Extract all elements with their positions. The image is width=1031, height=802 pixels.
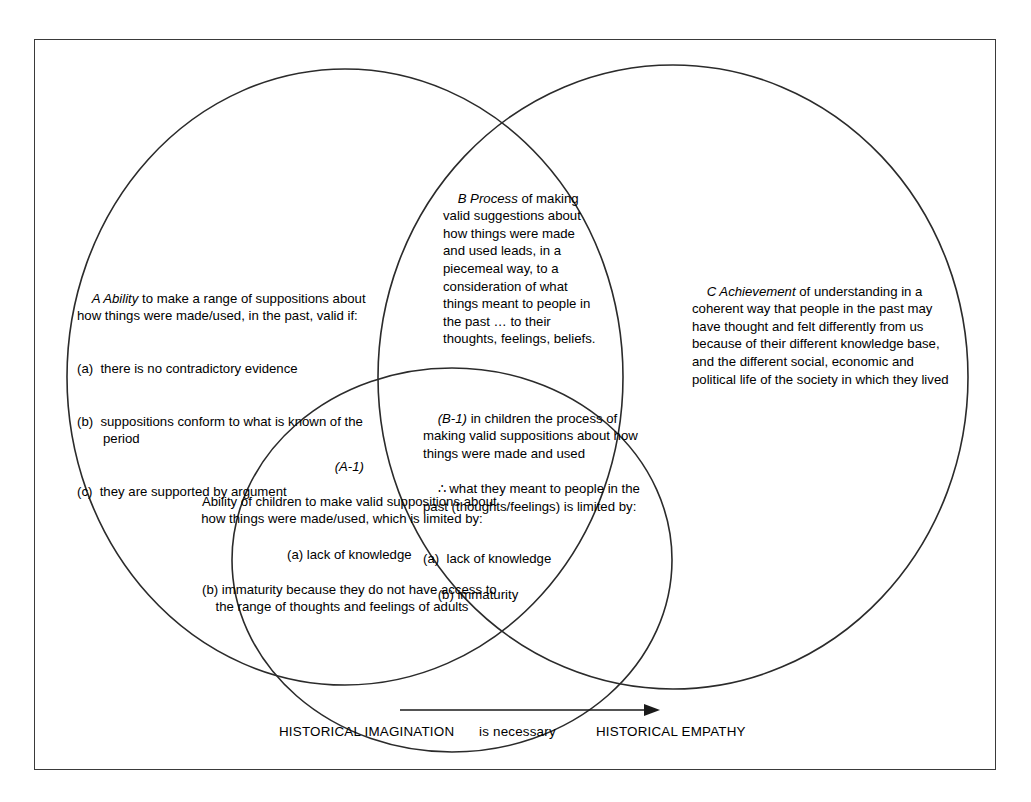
region-c-lead: C Achievement: [707, 284, 796, 299]
region-a-item-0: (a) there is no contradictory evidence: [77, 360, 389, 378]
region-a1-item-1: (b) immaturity because they do not have …: [202, 582, 500, 615]
region-b-lead: B Process: [458, 191, 518, 206]
region-a-lead: A Ability: [92, 291, 139, 306]
region-b-body: of making valid suggestions about how th…: [443, 191, 596, 347]
region-b-label: B Process of making valid suggestions ab…: [443, 172, 599, 366]
axis-label-left: HISTORICAL IMAGINATION: [279, 724, 454, 739]
region-c-body: of understanding in a coherent way that …: [692, 284, 949, 387]
axis-label-group: HISTORICAL IMAGINATION is necessary HIST…: [0, 724, 1031, 750]
axis-label-middle: is necessary: [479, 724, 556, 739]
region-a1-item-0: (a) lack of knowledge: [287, 547, 412, 562]
region-a1-label: (A-1) Ability of children to make valid …: [186, 440, 498, 634]
region-c-label: C Achievement of understanding in a cohe…: [692, 265, 960, 406]
venn-diagram-root: A Ability to make a range of supposition…: [0, 0, 1031, 802]
region-b1-lead: (B-1): [438, 411, 467, 426]
axis-label-right: HISTORICAL EMPATHY: [596, 724, 746, 739]
region-a1-body: Ability of children to make valid suppos…: [201, 494, 500, 527]
region-a1-lead: (A-1): [335, 459, 364, 474]
